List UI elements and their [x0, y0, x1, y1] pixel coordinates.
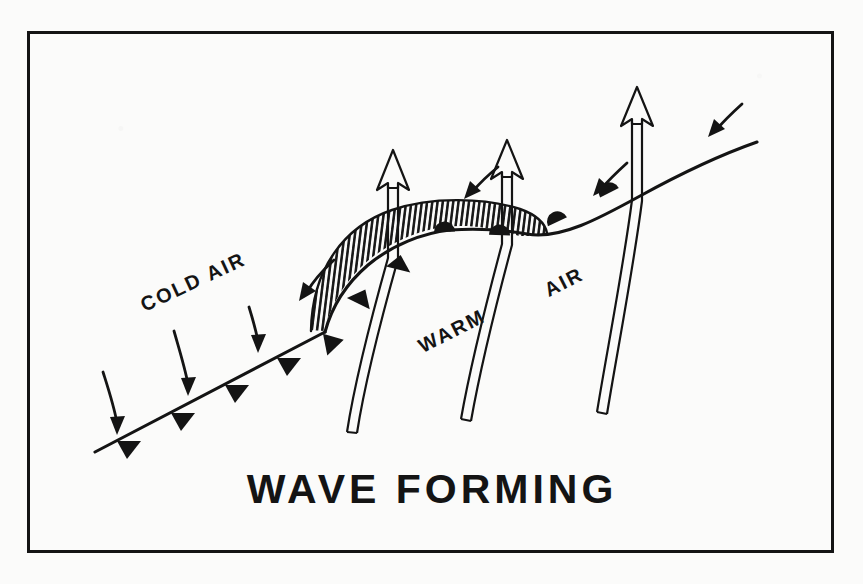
cold-front-barb [323, 332, 345, 356]
cold-front-barb [346, 289, 369, 310]
warm-air-updraft-arrow [597, 87, 653, 414]
cold-air-inflow-arrow [174, 331, 196, 396]
figure-canvas: COLD AIR WARM AIR WAVE FORMING [0, 0, 863, 584]
cold-front-barb [225, 385, 249, 403]
warm-label: WARM [415, 305, 489, 357]
cold-air-inflow-arrow [249, 307, 266, 353]
wave-forming-diagram: COLD AIR WARM AIR WAVE FORMING [0, 0, 863, 584]
hatched-frontal-band [295, 185, 565, 350]
cold-front-barb [117, 441, 141, 459]
cold-front-barb [171, 413, 195, 431]
air-label: AIR [541, 263, 588, 301]
cold-front-barb [277, 358, 301, 376]
warm-air-updraft-arrow [347, 150, 409, 433]
warm-air-overrunning-arrow [464, 167, 498, 199]
cold-air-inflow-arrow [708, 104, 742, 137]
warm-front-semicircle [543, 208, 566, 226]
cold-air-label: COLD AIR [137, 248, 249, 316]
cold-air-inflow-arrow [103, 372, 125, 435]
figure-title: WAVE FORMING [247, 466, 618, 512]
